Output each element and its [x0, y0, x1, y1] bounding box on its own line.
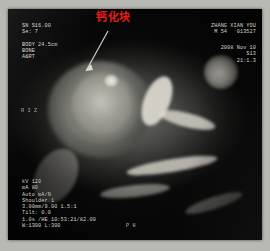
overlay-study-info: 2008 Nov 10 S13 21:1.3 — [221, 45, 256, 64]
rib-bone-lower — [100, 181, 171, 200]
orientation-markers: R I Z — [21, 105, 37, 117]
ct-film-photograph: SN S16.00 Se: 7 BODY 24.5cm BONE A&RT ZH… — [0, 0, 270, 251]
overlay-scan-parameters: kV 120 mA 80 Auto mA/N Shoulder 1 3.00mm… — [22, 179, 96, 229]
overlay-patient-info: ZHANG XIAN YOU M 54 013527 — [211, 23, 256, 36]
clavicle-bone — [157, 106, 217, 134]
scapula-blade — [184, 188, 245, 218]
calcified-mass — [104, 75, 118, 87]
overlay-bottom-center: P H — [126, 223, 136, 229]
ct-film: SN S16.00 Se: 7 BODY 24.5cm BONE A&RT ZH… — [8, 9, 262, 240]
humeral-head — [72, 73, 132, 135]
rib-bone — [126, 152, 219, 179]
overlay-top-left: SN S16.00 Se: 7 BODY 24.5cm BONE A&RT — [22, 23, 57, 61]
annotation-label: 钙化块 — [96, 8, 131, 24]
